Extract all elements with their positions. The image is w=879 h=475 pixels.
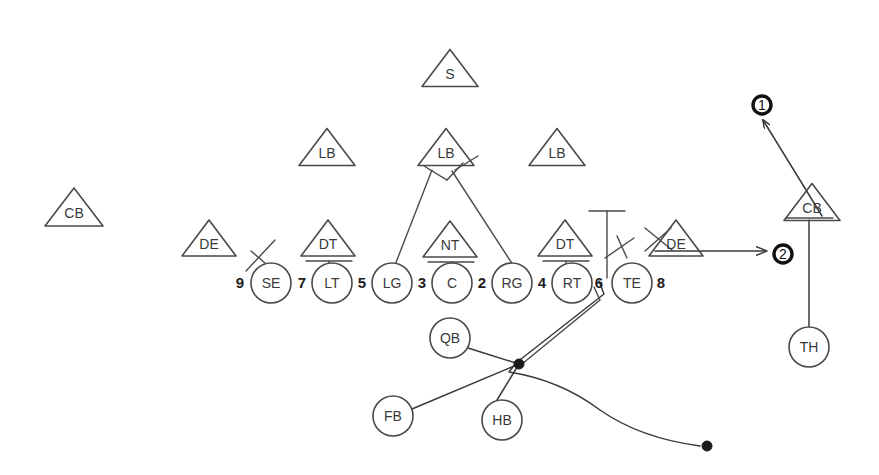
defender-label: LB	[548, 145, 565, 161]
defender-s[interactable]: S	[422, 50, 478, 87]
defender-label: CB	[64, 205, 83, 221]
route-ball-carrier-sweep	[509, 281, 700, 446]
player-th[interactable]: TH	[789, 327, 829, 367]
player-te[interactable]: TE	[612, 263, 652, 303]
defender-label: NT	[441, 237, 460, 253]
football-play-diagram: SLBLBLBCBDEDTNTDTDECB SELTLGCRGRTTEQBFBH…	[0, 0, 879, 475]
route-th-vertical	[786, 218, 833, 327]
player-hb[interactable]: HB	[482, 400, 522, 440]
gap-number: 9	[236, 274, 244, 291]
defender-dt[interactable]: DT	[538, 220, 592, 256]
player-label: LG	[383, 275, 402, 291]
release-tick-te	[605, 236, 634, 258]
defender-label: S	[445, 66, 454, 82]
player-lg[interactable]: LG	[372, 263, 412, 303]
defender-lb[interactable]: LB	[418, 129, 474, 166]
exchange-point-dot	[514, 359, 524, 369]
gap-number: 8	[657, 274, 665, 291]
gap-number: 4	[538, 274, 547, 291]
player-label: FB	[384, 408, 402, 424]
player-label: QB	[440, 330, 460, 346]
gap-number: 5	[358, 274, 366, 291]
gap-number: 6	[595, 274, 603, 291]
defender-lb[interactable]: LB	[299, 129, 355, 166]
route-end-dot	[702, 441, 712, 451]
node-dots	[514, 359, 712, 451]
marker-number: 1	[758, 97, 766, 113]
defender-label: DT	[556, 236, 575, 252]
defender-dt[interactable]: DT	[301, 220, 355, 256]
defender-label: LB	[318, 145, 335, 161]
gap-number: 2	[478, 274, 486, 291]
defender-cb[interactable]: CB	[784, 184, 840, 221]
defender-label: LB	[437, 145, 454, 161]
player-label: TE	[623, 275, 641, 291]
player-label: LT	[324, 275, 340, 291]
player-rt[interactable]: RT	[552, 263, 592, 303]
player-c[interactable]: C	[432, 263, 472, 303]
defender-label: DE	[666, 236, 685, 252]
defender-lb[interactable]: LB	[529, 129, 585, 166]
player-label: RT	[563, 275, 582, 291]
player-label: HB	[492, 412, 511, 428]
play-diagram-canvas: SLBLBLBCBDEDTNTDTDECB SELTLGCRGRTTEQBFBH…	[0, 0, 879, 475]
defender-label: CB	[802, 200, 821, 216]
player-label: RG	[502, 275, 523, 291]
player-lt[interactable]: LT	[312, 263, 352, 303]
marker-number: 2	[779, 246, 787, 262]
defender-nt[interactable]: NT	[423, 221, 477, 257]
marker-group: 12	[753, 96, 792, 263]
defense-group: SLBLBLBCBDEDTNTDTDECB	[45, 50, 840, 258]
defender-de[interactable]: DE	[182, 220, 236, 256]
player-label: C	[447, 275, 457, 291]
defender-cb[interactable]: CB	[45, 188, 103, 226]
player-se[interactable]: SE	[251, 263, 291, 303]
defender-label: DE	[199, 236, 218, 252]
route-marker-1[interactable]: 1	[753, 96, 771, 114]
player-qb[interactable]: QB	[430, 318, 470, 358]
gap-number: 7	[298, 274, 306, 291]
route-marker-2[interactable]: 2	[774, 245, 792, 263]
defender-label: DT	[319, 236, 338, 252]
player-rg[interactable]: RG	[492, 263, 532, 303]
player-label: SE	[262, 275, 281, 291]
player-fb[interactable]: FB	[373, 396, 413, 436]
gap-number: 3	[418, 274, 426, 291]
player-label: TH	[800, 339, 819, 355]
